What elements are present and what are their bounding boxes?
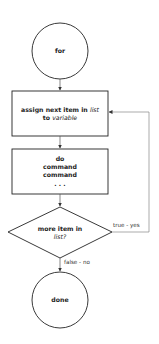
false-branch-label: false - no [64, 259, 90, 265]
end-node: done [32, 272, 88, 328]
start-node: for [32, 23, 88, 79]
end-label: done [51, 296, 68, 303]
body-line-ellipsis: . . . [54, 180, 65, 187]
decision-label-line1: more item in [38, 225, 83, 232]
for-loop-flowchart: for assign next item in list to variable… [0, 0, 159, 344]
true-branch-label: true - yes [113, 222, 140, 229]
body-node: do command command . . . [12, 149, 108, 194]
assign-label-line1: assign next item in list [21, 106, 100, 114]
decision-node: more item in list? [8, 207, 112, 258]
body-line-command-1: command [43, 163, 77, 170]
decision-label-line2: list? [54, 233, 67, 240]
start-label: for [55, 47, 66, 54]
assign-node: assign next item in list to variable [12, 91, 108, 136]
body-line-command-2: command [43, 171, 77, 178]
body-line-do: do [56, 155, 65, 162]
edge-true-return-loop [109, 112, 149, 232]
assign-label-line2: to variable [43, 114, 78, 121]
